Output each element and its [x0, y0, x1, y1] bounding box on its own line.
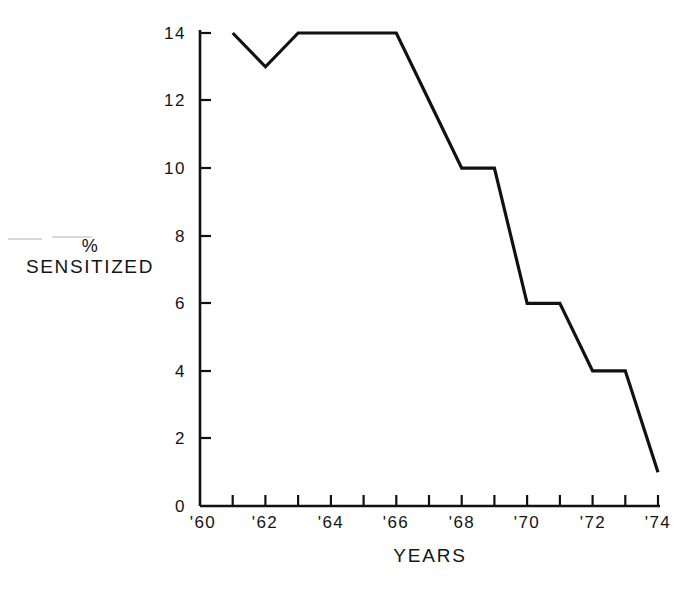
x-tick-label: '68: [449, 514, 476, 531]
y-tick-label: 12: [144, 92, 186, 109]
y-axis-label-text: SENSITIZED: [14, 256, 166, 277]
x-tick-label: '60: [190, 514, 217, 531]
x-tick-label: '62: [252, 514, 279, 531]
x-tick-label: '66: [383, 514, 410, 531]
y-tick-marks: [200, 33, 211, 438]
x-tick-marks: [233, 495, 658, 506]
y-tick-label: 14: [144, 25, 186, 42]
line-chart-plot: [0, 0, 697, 596]
chart-figure: 14 12 10 8 6 4 2 0 '60 '62 '64 '66 '68 '…: [0, 0, 697, 596]
y-tick-label: 4: [144, 363, 186, 380]
x-tick-label: '70: [514, 514, 541, 531]
x-tick-label: '72: [580, 514, 607, 531]
y-tick-label: 6: [144, 295, 186, 312]
x-tick-label: '64: [318, 514, 345, 531]
x-axis-label: YEARS: [393, 545, 466, 567]
y-tick-label: 10: [144, 160, 186, 177]
data-series-line: [233, 33, 658, 472]
y-axis-label-symbol: %: [14, 236, 166, 256]
y-tick-label: 2: [144, 430, 186, 447]
y-axis-label: % SENSITIZED: [14, 236, 166, 277]
y-tick-label: 0: [144, 498, 186, 515]
x-tick-label: '74: [645, 514, 672, 531]
